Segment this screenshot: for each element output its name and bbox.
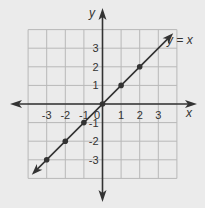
y-tick-label: 3 bbox=[92, 42, 98, 54]
data-point bbox=[63, 138, 69, 144]
data-point bbox=[81, 120, 87, 126]
x-axis-label: x bbox=[185, 106, 193, 120]
x-tick-label: -2 bbox=[60, 109, 70, 121]
origin-label: 0 bbox=[94, 109, 100, 121]
y-tick-label: 2 bbox=[92, 61, 98, 73]
x-tick-label: 1 bbox=[118, 109, 124, 121]
data-point bbox=[118, 83, 124, 89]
x-tick-label: 3 bbox=[155, 109, 161, 121]
y-tick-label: -3 bbox=[89, 154, 99, 166]
data-point bbox=[100, 101, 106, 107]
x-tick-label: -3 bbox=[42, 109, 52, 121]
y-tick-label: -2 bbox=[89, 135, 99, 147]
line-annotation: y = x bbox=[166, 33, 194, 47]
coordinate-plane: -3-2-1123-3-2-1123 x y y = x 0 bbox=[0, 0, 205, 208]
data-point bbox=[137, 64, 143, 70]
y-axis-label: y bbox=[88, 6, 96, 20]
y-tick-label: 1 bbox=[92, 79, 98, 91]
x-tick-label: 2 bbox=[137, 109, 143, 121]
data-point bbox=[44, 157, 50, 163]
